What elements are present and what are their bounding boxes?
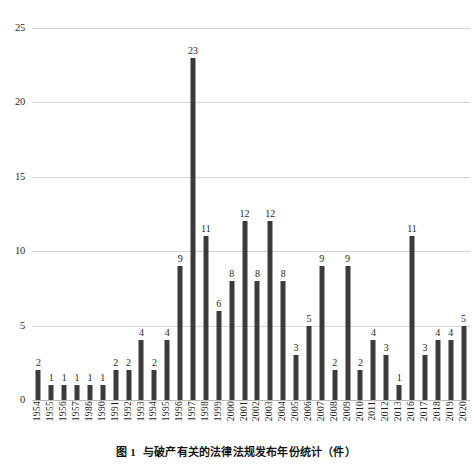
bar-value-label: 9: [319, 254, 324, 264]
bar-value-label: 11: [201, 224, 211, 234]
bar-group: 11: [199, 28, 212, 400]
bar-group: 5: [303, 28, 316, 400]
bar-value-label: 2: [126, 358, 131, 368]
x-axis-tick-1954: 1954: [34, 401, 44, 421]
x-axis-tick-2011: 2011: [369, 401, 379, 421]
bar-value-label: 4: [139, 328, 144, 338]
bar-value-label: 5: [306, 314, 311, 324]
bar-value-label: 3: [384, 343, 389, 353]
bar-value-label: 4: [165, 328, 170, 338]
bar-value-label: 12: [240, 209, 250, 219]
bar-value-label: 5: [461, 314, 466, 324]
bar: [87, 385, 92, 400]
bar: [100, 385, 105, 400]
bar-group: 3: [380, 28, 393, 400]
bar-group: 6: [212, 28, 225, 400]
bar-group: 3: [418, 28, 431, 400]
bar-group: 9: [341, 28, 354, 400]
x-axis-tick-1998: 1998: [201, 401, 211, 421]
bar-value-label: 8: [229, 269, 234, 279]
bar: [255, 281, 260, 400]
x-axis-tick-2003: 2003: [266, 401, 276, 421]
bar-group: 8: [225, 28, 238, 400]
bar-group: 11: [406, 28, 419, 400]
x-axis-tick-2016: 2016: [407, 401, 417, 421]
bar: [178, 266, 183, 400]
bar-value-label: 1: [75, 373, 80, 383]
bar-group: 1: [45, 28, 58, 400]
bar: [203, 236, 208, 400]
figure-caption-number: 图 1: [116, 446, 136, 458]
bar-value-label: 2: [113, 358, 118, 368]
x-axis-tick-1991: 1991: [111, 401, 121, 421]
bar: [306, 326, 311, 400]
bar-group: 2: [328, 28, 341, 400]
y-axis-tick-5: 5: [20, 320, 25, 331]
bar-group: 1: [71, 28, 84, 400]
bar-value-label: 9: [178, 254, 183, 264]
x-axis-tick-1995: 1995: [163, 401, 173, 421]
bar-group: 12: [264, 28, 277, 400]
bar: [435, 340, 440, 400]
bar: [294, 355, 299, 400]
bar-value-label: 1: [62, 373, 67, 383]
y-axis-tick-20: 20: [15, 97, 25, 108]
bar-group: 9: [174, 28, 187, 400]
bar-group: 2: [32, 28, 45, 400]
bar-group: 4: [135, 28, 148, 400]
x-axis-tick-1994: 1994: [150, 401, 160, 421]
x-axis-tick-2009: 2009: [343, 401, 353, 421]
bar-group: 1: [58, 28, 71, 400]
bar: [358, 370, 363, 400]
bar-group: 8: [251, 28, 264, 400]
x-axis-tick-1990: 1990: [98, 401, 108, 421]
bar-value-label: 1: [87, 373, 92, 383]
bar-group: 2: [109, 28, 122, 400]
x-axis-tick-2019: 2019: [446, 401, 456, 421]
x-axis-tick-2002: 2002: [253, 401, 263, 421]
bar: [36, 370, 41, 400]
bar: [268, 221, 273, 400]
y-axis-tick-10: 10: [15, 246, 25, 257]
bar: [332, 370, 337, 400]
x-axis-tick-2018: 2018: [433, 401, 443, 421]
x-axis-tick-2000: 2000: [227, 401, 237, 421]
bar: [281, 281, 286, 400]
y-axis-tick-0: 0: [20, 395, 25, 406]
bar-value-label: 1: [397, 373, 402, 383]
bar: [165, 340, 170, 400]
bar-group: 1: [84, 28, 97, 400]
x-axis-tick-labels: 1954195519561957198619901991199219931994…: [32, 401, 470, 441]
figure-caption-text: 与破产有关的法律法规发布年份统计（件）: [143, 446, 356, 458]
bar-group: 1: [96, 28, 109, 400]
bar-value-label: 12: [265, 209, 275, 219]
bar: [384, 355, 389, 400]
bar: [448, 340, 453, 400]
bar: [345, 266, 350, 400]
bar: [461, 326, 466, 400]
bar-group: 12: [238, 28, 251, 400]
bar-group: 4: [444, 28, 457, 400]
x-axis-tick-2005: 2005: [291, 401, 301, 421]
x-axis-tick-1992: 1992: [124, 401, 134, 421]
bar: [410, 236, 415, 400]
x-axis-tick-1997: 1997: [188, 401, 198, 421]
bar-value-label: 1: [49, 373, 54, 383]
bar-value-label: 9: [345, 254, 350, 264]
x-axis-tick-1955: 1955: [47, 401, 57, 421]
bar: [397, 385, 402, 400]
bar-value-label: 3: [422, 343, 427, 353]
bar-group: 4: [431, 28, 444, 400]
bar: [49, 385, 54, 400]
x-axis-tick-2017: 2017: [420, 401, 430, 421]
bar: [152, 370, 157, 400]
bar-value-label: 6: [216, 299, 221, 309]
bar-group: 3: [290, 28, 303, 400]
bar-value-label: 4: [371, 328, 376, 338]
x-axis-tick-2013: 2013: [394, 401, 404, 421]
figure-caption: 图 1与破产有关的法律法规发布年份统计（件）: [0, 443, 472, 459]
x-axis-tick-1957: 1957: [72, 401, 82, 421]
x-axis-tick-2007: 2007: [317, 401, 327, 421]
bar: [126, 370, 131, 400]
x-axis-tick-2001: 2001: [240, 401, 250, 421]
